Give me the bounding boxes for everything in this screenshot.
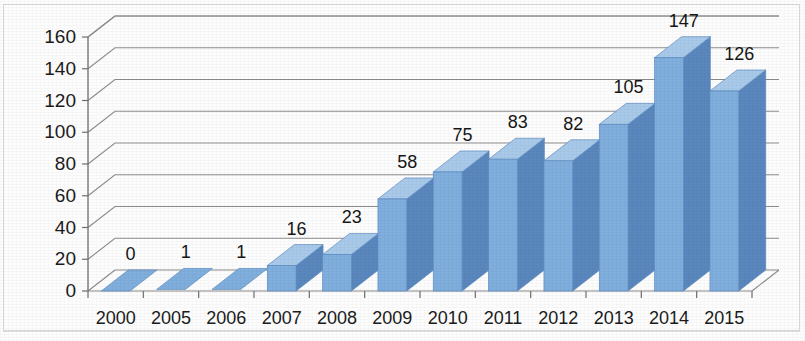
bar-value-label-2006: 1 (236, 242, 246, 262)
bar-front-face-2010 (433, 172, 462, 291)
x-tick-label-2007: 2007 (262, 308, 302, 328)
bar-2012 (544, 140, 600, 291)
bar-side-face-2010 (462, 151, 489, 291)
x-axis (88, 291, 752, 298)
bar-front-face-2012 (544, 161, 573, 291)
bar-value-label-2010: 75 (453, 125, 473, 145)
bar-value-label-2014: 147 (669, 11, 699, 31)
x-tick-label-2014: 2014 (649, 308, 689, 328)
y-tick-label-160: 160 (44, 26, 76, 47)
bars (101, 37, 765, 291)
bar-side-face-2012 (573, 140, 600, 291)
y-tick-label-120: 120 (44, 90, 76, 111)
bar-2006 (212, 268, 268, 289)
bar-value-label-2015: 126 (724, 44, 754, 64)
bar-plate-2005 (157, 268, 213, 289)
x-tick-label-2010: 2010 (428, 308, 468, 328)
bar-2015 (710, 70, 766, 291)
bar-front-face-2007 (267, 266, 296, 291)
bar-value-label-2011: 83 (508, 112, 528, 132)
bar-2000 (101, 270, 157, 291)
bar-2005 (157, 268, 213, 289)
bar-2014 (655, 37, 711, 291)
bar-value-label-2000: 0 (126, 244, 136, 264)
bar-chart-plot: 020406080100120140160 011162358758382105… (0, 0, 805, 341)
x-tick-label-2006: 2006 (206, 308, 246, 328)
bar-value-label-2013: 105 (613, 77, 643, 97)
x-tick-label-2011: 2011 (484, 308, 523, 328)
bar-plate-2006 (212, 268, 268, 289)
x-tick-label-2013: 2013 (594, 308, 634, 328)
x-axis-tick-labels: 2000200520062007200820092010201120122013… (96, 308, 745, 328)
bar-front-face-2013 (599, 124, 628, 291)
y-axis-top-depth-edge (88, 16, 115, 37)
y-tick-label-0: 0 (65, 280, 76, 301)
bar-value-label-2008: 23 (342, 207, 362, 227)
bar-value-label-2005: 1 (181, 242, 191, 262)
x-tick-label-2009: 2009 (372, 308, 412, 328)
bar-front-face-2015 (710, 91, 739, 291)
bar-front-face-2011 (489, 159, 518, 291)
x-tick-label-2000: 2000 (96, 308, 136, 328)
x-tick-label-2015: 2015 (704, 308, 744, 328)
bar-side-face-2011 (517, 138, 544, 291)
bar-value-label-2012: 82 (563, 114, 583, 134)
bar-side-face-2013 (628, 103, 655, 291)
bar-front-face-2014 (655, 58, 684, 291)
y-tick-label-40: 40 (55, 217, 76, 238)
bar-2009 (378, 178, 434, 291)
bar-front-face-2008 (323, 254, 352, 291)
bar-value-label-2007: 16 (287, 219, 307, 239)
bar-front-face-2009 (378, 199, 407, 291)
x-tick-label-2012: 2012 (538, 308, 578, 328)
y-tick-label-100: 100 (44, 121, 76, 142)
bar-side-face-2014 (683, 37, 710, 291)
bar-2010 (433, 151, 489, 291)
x-tick-label-2008: 2008 (317, 308, 357, 328)
bar-side-face-2015 (739, 70, 766, 291)
bar-value-label-2009: 58 (397, 152, 417, 172)
bar-2007 (267, 245, 323, 291)
y-tick-label-140: 140 (44, 58, 76, 79)
bar-plate-2000 (101, 270, 157, 291)
bar-2013 (599, 103, 655, 291)
bar-2011 (489, 138, 545, 291)
bar-2008 (323, 233, 379, 291)
x-tick-label-2005: 2005 (151, 308, 191, 328)
y-tick-label-20: 20 (55, 248, 76, 269)
y-tick-label-60: 60 (55, 185, 76, 206)
y-axis-tick-labels: 020406080100120140160 (44, 26, 76, 301)
chart-screenshot: 020406080100120140160 011162358758382105… (0, 0, 805, 341)
y-tick-label-80: 80 (55, 153, 76, 174)
